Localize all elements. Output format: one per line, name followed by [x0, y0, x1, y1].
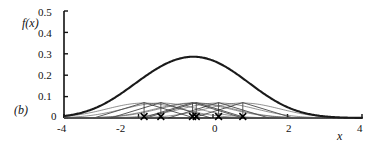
- panel-label: (b): [14, 103, 28, 118]
- x-tick-label-4: 4: [357, 122, 363, 134]
- x-tick-label-1: -2: [116, 122, 125, 134]
- y-tick-label-3: 0.2: [38, 69, 52, 81]
- y-tick-label-4: 0.1: [38, 90, 52, 102]
- y-tick-label-5: 0: [51, 110, 57, 122]
- x-tick-label-2: 0: [212, 122, 218, 134]
- y-tick-label-2: 0.3: [38, 48, 52, 60]
- x-tick-label-0: -4: [57, 122, 66, 134]
- kde-figure-panel-b: (b) f(x) x 0.5 0.4 0.3 0.2 0.1 0 -4 -2 0…: [0, 0, 376, 149]
- y-tick-label-0: 0.5: [38, 6, 52, 18]
- x-axis-label: x: [337, 129, 342, 144]
- x-tick-label-3: 2: [286, 122, 292, 134]
- y-tick-label-1: 0.4: [38, 27, 52, 39]
- y-axis-label: f(x): [22, 16, 39, 31]
